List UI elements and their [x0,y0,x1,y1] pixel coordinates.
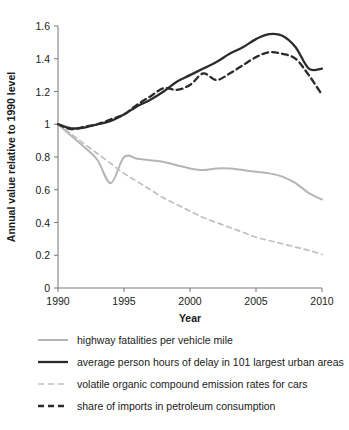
legend-item[interactable]: share of imports in petroleum consumptio… [0,395,349,417]
series-line-2 [58,124,322,254]
x-tick-labels: 19901995200020052010 [46,295,334,307]
legend-swatch-icon [38,356,68,368]
y-tick-label: 0.2 [35,249,50,261]
series-line-3 [58,52,322,129]
series-line-0 [58,124,322,199]
legend-label: highway fatalities per vehicle mile [77,334,233,346]
y-tick-label: 1 [44,118,50,130]
series-line-1 [58,34,322,129]
x-axis-group: 19901995200020052010 [46,288,334,307]
legend-swatch-icon [38,378,68,390]
x-tick-label: 2010 [310,295,334,307]
y-tick-marks [54,26,58,288]
y-axis-group: 00.20.40.60.811.21.41.6 [35,20,58,294]
x-tick-label: 2000 [178,295,202,307]
x-tick-label: 1990 [46,295,70,307]
legend-label: average person hours of delay in 101 lar… [77,356,344,368]
y-axis-title: Annual value relative to 1990 level [5,72,17,242]
x-axis-title: Year [179,312,201,324]
y-tick-label: 1.6 [35,20,50,32]
data-series-group [58,34,322,255]
x-tick-marks [58,288,322,292]
chart-legend: highway fatalities per vehicle mileavera… [0,329,349,417]
legend-label: share of imports in petroleum consumptio… [77,400,275,412]
x-tick-label: 2005 [244,295,268,307]
y-tick-label: 0.6 [35,184,50,196]
y-tick-label: 0.4 [35,217,50,229]
y-tick-label: 0.8 [35,151,50,163]
legend-item[interactable]: highway fatalities per vehicle mile [0,329,349,351]
legend-label: volatile organic compound emission rates… [77,378,308,390]
y-tick-label: 0 [44,282,50,294]
legend-swatch-icon [38,400,68,412]
x-tick-label: 1995 [112,295,136,307]
legend-item[interactable]: volatile organic compound emission rates… [0,373,349,395]
legend-swatch-icon [38,334,68,346]
y-tick-label: 1.2 [35,86,50,98]
y-tick-label: 1.4 [35,53,50,65]
y-tick-labels: 00.20.40.60.811.21.41.6 [35,20,50,294]
chart-figure: 00.20.40.60.811.21.41.6 1990199520002005… [0,0,349,430]
legend-item[interactable]: average person hours of delay in 101 lar… [0,351,349,373]
